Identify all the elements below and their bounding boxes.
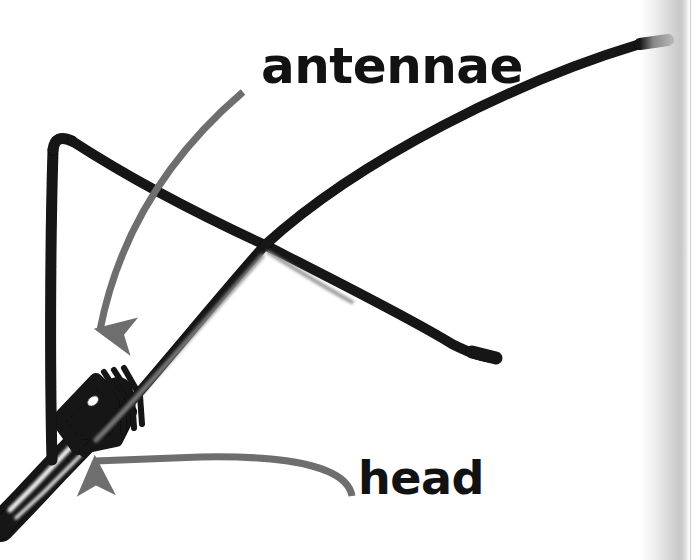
label-head: head [358, 455, 484, 501]
antenna-left-descending [72, 141, 496, 358]
label-antennae: antennae [261, 41, 523, 91]
antennae [51, 40, 668, 460]
antenna-right-shaft [84, 44, 640, 452]
head-arrow [95, 457, 352, 496]
antenna-left-shaft [51, 150, 53, 460]
antenna-left-tip [472, 352, 496, 358]
figure-page: antennae head [0, 0, 700, 560]
antenna-right-tip [640, 40, 668, 44]
